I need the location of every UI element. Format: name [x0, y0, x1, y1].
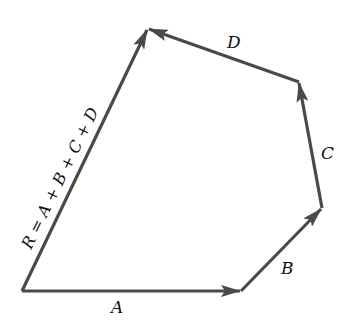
vector-c-arrow — [299, 83, 322, 208]
vector-c — [299, 83, 322, 208]
label-c: C — [321, 143, 334, 163]
label-a: A — [109, 297, 123, 317]
label-b: B — [280, 258, 294, 278]
vector-r-arrow — [22, 30, 147, 291]
vector-b — [241, 209, 321, 291]
vector-d — [149, 29, 299, 82]
label-d: D — [226, 32, 241, 52]
vector-r — [22, 30, 147, 291]
vector-diagram: A B C D R = A + B + C + D — [0, 0, 354, 336]
vector-d-arrow — [149, 29, 299, 82]
vector-b-arrow — [241, 209, 321, 291]
label-r-resultant: R = A + B + C + D — [17, 104, 102, 252]
